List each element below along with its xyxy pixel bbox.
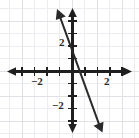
y-axis-arrow-down	[68, 124, 77, 133]
x-axis	[7, 67, 132, 76]
y-axis-tick-label-negative-2: −2	[52, 100, 64, 111]
x-axis-arrow-right	[123, 67, 132, 76]
x-axis-arrow-left	[7, 67, 16, 76]
x-axis-tick-label-negative-2: −2	[31, 76, 43, 87]
coordinate-plane-graph: −2 2 2 −2	[0, 0, 139, 138]
x-axis-tick-label-positive-2: 2	[104, 76, 110, 87]
y-axis-arrow-up	[68, 8, 77, 17]
y-axis-tick-label-positive-2: 2	[59, 37, 65, 48]
graph-canvas	[0, 0, 139, 138]
